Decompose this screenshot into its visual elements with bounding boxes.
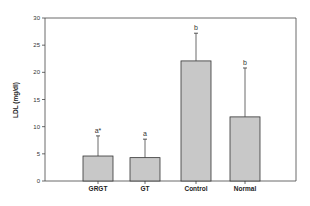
- y-tick-label: 0: [37, 178, 41, 184]
- significance-label: b: [243, 59, 247, 66]
- ldl-bar-chart: 051015202530GRGTGTControlNormal a*abb LD…: [0, 0, 310, 206]
- x-tick-label: Normal: [234, 185, 257, 192]
- significance-label: a*: [95, 127, 102, 134]
- y-tick-label: 5: [37, 151, 41, 157]
- significance-label: b: [194, 24, 198, 31]
- bar-control: [181, 61, 211, 181]
- y-axis-label: LDL (mg/dl): [12, 82, 20, 118]
- y-tick-label: 10: [33, 124, 40, 130]
- x-tick-label: GRGT: [89, 185, 108, 192]
- x-tick-label: GT: [140, 185, 149, 192]
- y-tick-label: 15: [33, 97, 40, 103]
- x-tick-label: Control: [184, 185, 207, 192]
- chart-bars: a*abb: [83, 24, 260, 181]
- significance-label: a: [143, 130, 147, 137]
- bar-normal: [230, 117, 260, 181]
- y-tick-label: 30: [33, 15, 40, 21]
- y-tick-label: 20: [33, 69, 40, 75]
- bar-gt: [130, 158, 160, 181]
- bar-grgt: [83, 156, 113, 181]
- y-tick-label: 25: [33, 42, 40, 48]
